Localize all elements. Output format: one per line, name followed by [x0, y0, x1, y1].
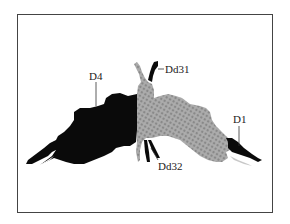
- label-dd32: Dd32: [158, 161, 182, 172]
- region-dd32: [144, 140, 150, 162]
- region-stippled: [134, 62, 230, 162]
- label-d4: D4: [89, 71, 102, 82]
- label-d1: D1: [233, 114, 246, 125]
- label-dd31: Dd31: [165, 64, 189, 75]
- region-d4: [26, 93, 137, 165]
- region-dd31: [148, 61, 158, 82]
- inkblot-diagram: [0, 0, 290, 224]
- region-d1: [226, 138, 262, 162]
